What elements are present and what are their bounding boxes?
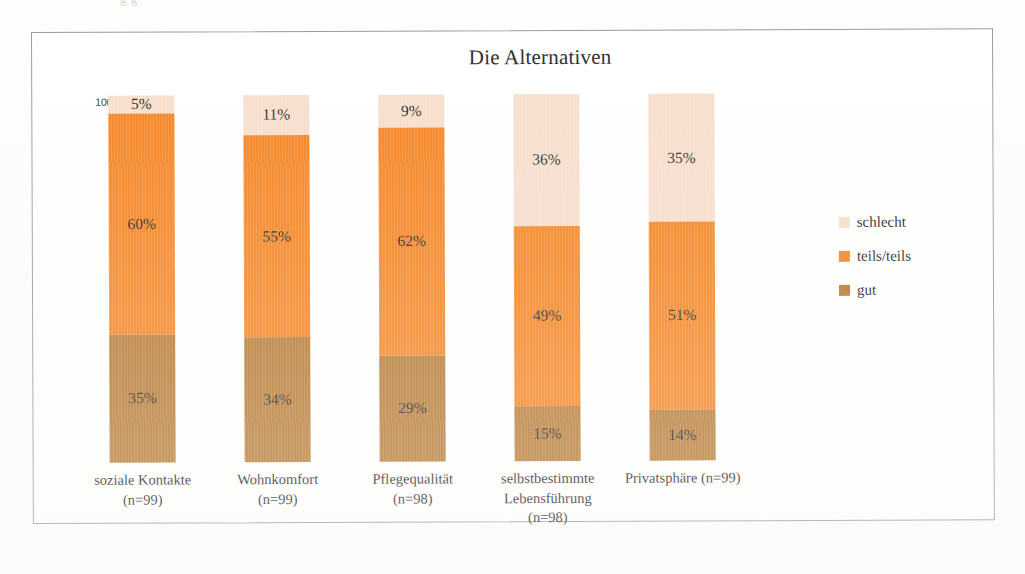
bar-segment-value-label: 62% <box>398 233 426 249</box>
bar-stack[interactable]: 35%51%14% <box>648 93 715 460</box>
bar-segment-value-label: 29% <box>398 400 426 416</box>
bar-group: 11%55%34% <box>243 95 310 462</box>
bar-segment-value-label: 34% <box>263 391 291 407</box>
bar-segment-gut[interactable]: 15% <box>514 406 580 461</box>
bar-segment-teils-teils[interactable]: 60% <box>108 114 175 334</box>
chart-frame: Die Alternativen 100% 5%60%35%11%55%34%9… <box>31 28 995 524</box>
bar-segment-schlecht[interactable]: 9% <box>378 94 444 127</box>
legend-item-gut[interactable]: gut <box>839 282 979 297</box>
chart-inner: Die Alternativen 100% 5%60%35%11%55%34%9… <box>32 29 994 523</box>
bar-segment-value-label: 11% <box>262 107 290 123</box>
chart-legend: schlechtteils/teilsgut <box>839 214 979 317</box>
legend-item-label: gut <box>857 282 876 297</box>
bar-segment-value-label: 14% <box>668 427 696 443</box>
bar-segment-schlecht[interactable]: 11% <box>243 95 309 136</box>
cut-off-text-above: g g <box>120 0 820 7</box>
bar-segment-value-label: 35% <box>128 390 156 406</box>
legend-swatch-icon <box>839 284 850 295</box>
bar-group: 5%60%35% <box>108 95 175 462</box>
bar-segment-value-label: 5% <box>131 96 152 112</box>
bar-segment-value-label: 51% <box>668 307 696 323</box>
legend-item-label: schlecht <box>857 214 906 229</box>
bar-segment-value-label: 55% <box>263 228 291 244</box>
bar-segment-value-label: 35% <box>667 149 695 165</box>
bar-segment-teils-teils[interactable]: 51% <box>649 222 716 409</box>
legend-item-schlecht[interactable]: schlecht <box>839 214 979 229</box>
x-axis-category-label: Wohnkomfort (n=99) <box>215 470 341 510</box>
bar-segment-gut[interactable]: 34% <box>244 337 310 462</box>
bar-segment-teils-teils[interactable]: 55% <box>243 135 310 337</box>
bar-segment-gut[interactable]: 35% <box>109 334 175 463</box>
bar-stack[interactable]: 9%62%29% <box>378 94 445 461</box>
bar-segment-teils-teils[interactable]: 62% <box>378 127 445 355</box>
bar-stack[interactable]: 11%55%34% <box>243 95 310 462</box>
bar-segment-schlecht[interactable]: 35% <box>648 93 714 222</box>
legend-swatch-icon <box>839 216 850 227</box>
x-axis-category-label: soziale Kontakte (n=99) <box>80 470 206 510</box>
bar-segment-teils-teils[interactable]: 49% <box>514 226 581 406</box>
bar-segment-gut[interactable]: 29% <box>379 355 445 462</box>
bar-stack[interactable]: 36%49%15% <box>513 94 580 461</box>
x-axis-category-label: Privatsphäre (n=99) <box>595 468 771 488</box>
plot-area: 5%60%35%11%55%34%9%62%29%36%49%15%35%51%… <box>108 90 809 463</box>
x-axis-category-label: Pflegequalität (n=98) <box>350 469 476 509</box>
bar-group: 35%51%14% <box>648 93 715 460</box>
chart-title: Die Alternativen <box>32 43 992 72</box>
scanned-page: g g Die Alternativen 100% 5%60%35%11%55%… <box>0 0 1025 574</box>
bar-segment-schlecht[interactable]: 36% <box>513 94 580 226</box>
bar-segment-schlecht[interactable]: 5% <box>108 95 174 114</box>
bar-segment-value-label: 36% <box>532 152 560 168</box>
bar-segment-gut[interactable]: 14% <box>649 409 715 461</box>
bar-group: 9%62%29% <box>378 94 445 461</box>
bar-segment-value-label: 49% <box>533 308 561 324</box>
legend-item-label: teils/teils <box>857 248 911 263</box>
bar-stack[interactable]: 5%60%35% <box>108 95 175 462</box>
bar-segment-value-label: 9% <box>401 103 422 119</box>
legend-swatch-icon <box>839 250 850 261</box>
bar-segment-value-label: 15% <box>533 425 561 441</box>
bar-group: 36%49%15% <box>513 94 580 461</box>
bar-segment-value-label: 60% <box>127 216 155 232</box>
legend-item-teils-teils[interactable]: teils/teils <box>839 248 979 263</box>
